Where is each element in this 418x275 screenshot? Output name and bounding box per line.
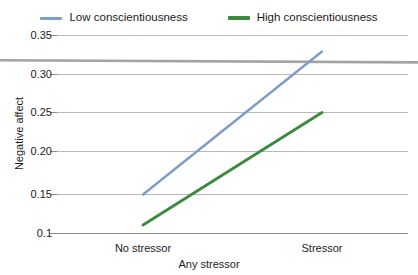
- plot-area: [0, 0, 418, 275]
- gridlines: [57, 36, 408, 195]
- y-axis-tick-labels: 0.35 0.30 0.25 0.20 0.15 0.1: [0, 0, 52, 275]
- x-tick-label-stressor: Stressor: [302, 243, 343, 254]
- x-axis-title: Any stressor: [0, 259, 418, 270]
- y-tick-label-01: 0.1: [6, 228, 52, 239]
- x-tick-label-no-stressor: No stressor: [115, 243, 171, 254]
- series-line-low-conscientiousness: [143, 52, 322, 195]
- gray-overlay-line: [0, 60, 418, 62]
- y-tick-label-035: 0.35: [6, 30, 52, 41]
- y-axis-title: Negative affect: [14, 74, 25, 194]
- series-line-high-conscientiousness: [143, 113, 322, 226]
- chart-figure: Low conscientiousness High conscientious…: [0, 0, 418, 275]
